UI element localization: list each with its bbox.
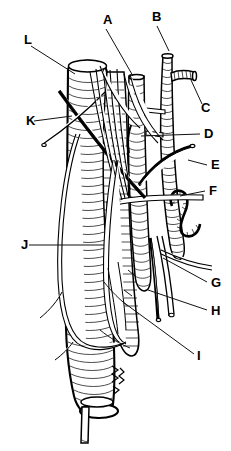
label-c: C [201,100,211,115]
label-g: G [211,275,221,290]
label-d: D [204,126,213,141]
trachea-cut-top [69,60,107,72]
lower-tube [81,407,89,443]
anatomy-drawing: ABCDEFGHIJKL [0,0,231,451]
label-e: E [211,157,220,172]
trachea-inner-rim [81,397,113,407]
label-j: J [21,237,28,252]
label-a: A [103,12,113,27]
label-i: I [197,348,201,363]
label-l: L [24,32,32,47]
label-b: B [152,9,161,24]
label-k: K [26,113,36,128]
label-h: H [211,303,220,318]
anatomical-figure: ABCDEFGHIJKL [0,0,231,451]
label-f: F [209,183,217,198]
